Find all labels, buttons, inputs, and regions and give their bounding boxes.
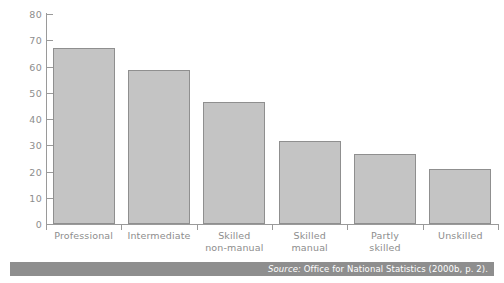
x-label-intermediate: Intermediate	[121, 230, 196, 242]
bar-partly-skilled	[354, 154, 416, 224]
bar-chart-figure: 01020304050607080 ProfessionalIntermedia…	[0, 0, 504, 283]
source-prefix: Source:	[268, 264, 301, 274]
source-text: Office for National Statistics (2000b, p…	[304, 264, 488, 274]
y-tick-label-70: 70	[2, 35, 42, 46]
y-tick-label-0: 0	[2, 219, 42, 230]
source-note: Source: Office for National Statistics (…	[10, 262, 494, 276]
x-label-skilled-non-manual: Skillednon-manual	[197, 230, 272, 253]
y-tick-label-40: 40	[2, 114, 42, 125]
x-label-unskilled: Unskilled	[423, 230, 498, 242]
y-tick-label-20: 20	[2, 166, 42, 177]
bar-professional	[53, 48, 115, 224]
x-label-skilled-manual: Skilledmanual	[272, 230, 347, 253]
y-tick-label-80: 80	[2, 9, 42, 20]
bar-skilled-manual	[279, 141, 341, 224]
y-tick-label-50: 50	[2, 87, 42, 98]
y-tick-label-60: 60	[2, 61, 42, 72]
y-tick-0	[46, 224, 53, 225]
bar-intermediate	[128, 70, 190, 224]
x-tick-6	[498, 224, 499, 230]
y-axis-tick-labels: 01020304050607080	[0, 0, 42, 283]
bar-unskilled	[429, 169, 491, 224]
bars-group	[46, 14, 498, 224]
bar-skilled-non-manual	[203, 102, 265, 224]
y-tick-label-30: 30	[2, 140, 42, 151]
x-axis-category-labels: ProfessionalIntermediateSkillednon-manua…	[46, 230, 498, 264]
x-label-professional: Professional	[46, 230, 121, 242]
x-label-partly-skilled: Partlyskilled	[347, 230, 422, 253]
y-tick-label-10: 10	[2, 192, 42, 203]
